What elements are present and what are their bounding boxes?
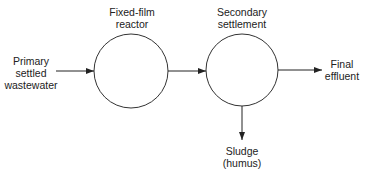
input-label: Primary settled wastewater [4, 55, 58, 91]
sludge-label: Sludge (humus) [220, 145, 264, 169]
settlement-node [206, 34, 278, 106]
effluent-label: Final effluent [322, 58, 362, 82]
reactor-node [94, 34, 168, 108]
reactor-label: Fixed-film reactor [106, 6, 158, 30]
settlement-label: Secondary settlement [212, 6, 272, 30]
